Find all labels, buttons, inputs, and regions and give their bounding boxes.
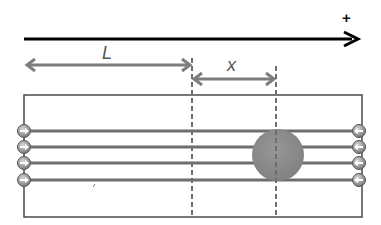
positive-direction-label: +: [342, 10, 351, 25]
negative-charge-icon: [18, 157, 31, 170]
negative-charge-icon: [353, 157, 366, 170]
right-charges: [353, 125, 366, 187]
negative-charge-icon: [353, 125, 366, 138]
negative-charge-icon: [353, 141, 366, 154]
positive-axis-arrow: [24, 32, 358, 46]
negative-charge-icon: [18, 141, 31, 154]
negative-charge-icon: [18, 174, 31, 187]
stray-mark: [93, 184, 95, 187]
label-x: x: [227, 56, 236, 74]
label-L: L: [102, 44, 112, 62]
charged-ball: [252, 129, 304, 181]
negative-charge-icon: [18, 125, 31, 138]
negative-charge-icon: [353, 174, 366, 187]
diagram-canvas: [0, 0, 381, 225]
